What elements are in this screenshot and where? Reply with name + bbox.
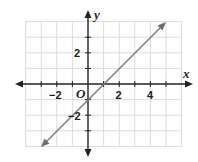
x-axis-right-arrow-icon <box>185 81 193 88</box>
x-tick-label-4: 4 <box>147 89 154 101</box>
y-tick-label-neg2: −2 <box>68 110 81 122</box>
x-axis-label: x <box>182 66 190 81</box>
y-tick-label-2: 2 <box>74 47 80 59</box>
y-axis-up-arrow-icon <box>85 10 92 18</box>
y-axis-down-arrow-icon <box>85 149 92 157</box>
origin-label: O <box>76 86 86 101</box>
x-tick-label-neg2: −2 <box>49 89 62 101</box>
x-axis-left-arrow-icon <box>15 81 23 88</box>
y-axis-label: y <box>92 7 100 22</box>
x-tick-label-2: 2 <box>116 89 122 101</box>
coordinate-graph: y x O −2 2 4 2 −2 <box>0 0 198 162</box>
